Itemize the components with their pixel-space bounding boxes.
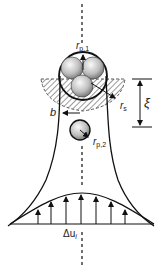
label-r-s-sub: s	[123, 105, 127, 112]
sphere-bottom	[71, 75, 93, 97]
label-r-p2-sub: p,2	[96, 141, 106, 149]
label-xi: ξ	[144, 95, 151, 110]
pore-throat-diagram: rp,1 rs b ξ rp,2 Δui	[0, 0, 160, 269]
svg-text:rs: rs	[120, 100, 127, 112]
label-b: b	[50, 106, 56, 118]
label-delta-u-sub: i	[75, 233, 77, 240]
velocity-profile-curve	[10, 193, 154, 224]
label-r-p1-sub: p,1	[79, 45, 89, 53]
svg-text:Δui: Δui	[63, 228, 77, 240]
label-delta-u: Δu	[63, 228, 75, 239]
svg-text:rp,2: rp,2	[93, 136, 106, 149]
